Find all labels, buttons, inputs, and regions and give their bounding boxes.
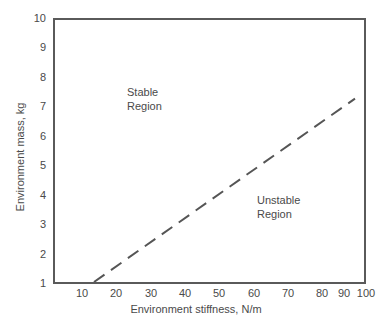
x-axis-title: Environment stiffness, N/m <box>0 303 392 315</box>
annotation-stable-region: Stable Region <box>127 85 162 113</box>
x-tick-label: 100 <box>346 288 386 299</box>
annotation-unstable-line-2: Region <box>257 207 300 221</box>
annotation-unstable-region: Unstable Region <box>257 193 300 221</box>
annotation-stable-line-1: Stable <box>127 85 162 99</box>
x-axis-ticks: 10 20 30 40 50 60 70 80 90 100 <box>0 0 392 325</box>
x-tick-label: 20 <box>96 288 136 299</box>
x-tick-label: 50 <box>199 288 239 299</box>
chart-figure: 10 9 8 7 6 5 4 3 2 1 10 20 30 40 50 60 7… <box>0 0 392 325</box>
annotation-unstable-line-1: Unstable <box>257 193 300 207</box>
annotation-stable-line-2: Region <box>127 99 162 113</box>
y-axis-title: Environment mass, kg <box>14 57 26 257</box>
